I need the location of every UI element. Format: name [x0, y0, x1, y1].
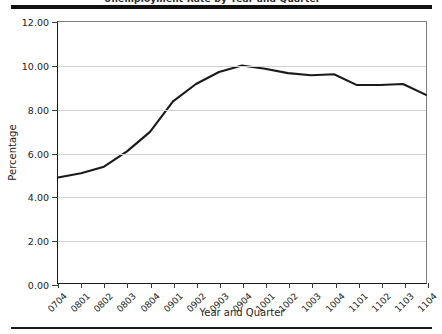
plot-area: 0.002.004.006.008.0010.0012.000704080108…	[57, 21, 427, 284]
x-axis-tick	[312, 283, 313, 288]
line-series	[58, 22, 426, 283]
y-axis-tick	[52, 197, 58, 198]
y-axis-tick-label: 12.00	[22, 17, 49, 28]
x-axis-tick	[81, 283, 82, 288]
y-axis-title: Percentage	[6, 21, 20, 284]
y-axis-tick-label: 0.00	[28, 280, 49, 291]
chart-figure: Percentage 0.002.004.006.008.0010.0012.0…	[0, 9, 442, 325]
x-axis-title: Year and Quarter	[57, 307, 427, 318]
y-axis-tick	[52, 22, 58, 23]
x-axis-tick	[289, 283, 290, 288]
page-title: Unemployment Rate by Year and Quarter	[104, 0, 320, 4]
x-axis-tick	[58, 283, 59, 288]
gridline	[58, 154, 426, 155]
x-axis-tick	[104, 283, 105, 288]
gridline	[58, 241, 426, 242]
y-axis-tick	[52, 110, 58, 111]
x-axis-tick	[197, 283, 198, 288]
x-axis-tick	[266, 283, 267, 288]
gridline	[58, 110, 426, 111]
x-axis-tick	[127, 283, 128, 288]
y-axis-tick-label: 2.00	[28, 236, 49, 247]
y-axis-tick-label: 10.00	[22, 60, 49, 71]
y-axis-tick-label: 8.00	[28, 104, 49, 115]
x-axis-tick	[336, 283, 337, 288]
x-axis-tick	[220, 283, 221, 288]
y-axis-tick-label: 6.00	[28, 148, 49, 159]
x-axis-tick	[174, 283, 175, 288]
footer-divider-rule	[11, 327, 432, 329]
x-axis-tick	[382, 283, 383, 288]
y-axis-tick	[52, 66, 58, 67]
x-axis-tick	[243, 283, 244, 288]
x-axis-tick	[359, 283, 360, 288]
y-axis-tick	[52, 241, 58, 242]
gridline	[58, 66, 426, 67]
x-axis-tick	[151, 283, 152, 288]
gridline	[58, 197, 426, 198]
x-axis-tick	[405, 283, 406, 288]
y-axis-tick-label: 4.00	[28, 192, 49, 203]
x-axis-tick	[428, 283, 429, 288]
y-axis-tick	[52, 154, 58, 155]
